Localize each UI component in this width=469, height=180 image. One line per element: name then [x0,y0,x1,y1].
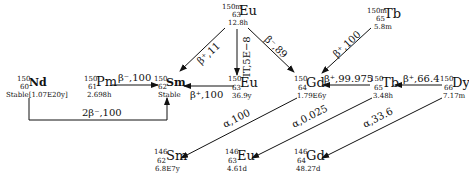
element-symbol: Eu [239,3,257,18]
element-symbol: Gd [306,148,325,163]
label-tb150-gd150: β⁺,99.975 [324,73,373,84]
element-symbol: Dy [452,75,469,90]
half-life: 7.17m [443,92,466,100]
half-life: 1.79E6y [297,92,326,100]
half-life: Stable[1.07E20y] [6,91,68,99]
half-life: 12.8h [228,19,249,27]
label-gd150-sm146: α,100 [221,107,252,130]
element-symbol: Eu [237,148,255,163]
atomic-number: 61 [88,83,97,91]
element-symbol: Tb [382,75,399,90]
label-nd150-sm150: 2β⁻,100 [82,107,122,118]
label-dy150-tb150: β⁺,66.4 [403,73,440,84]
nuclide-gd146: 146 Gd 64 48.27d [294,148,325,173]
arrow-dy150-gd146 [322,98,442,158]
half-life: 4.61d [227,165,248,173]
label-pm150-sm150: β⁻,100 [118,72,151,83]
atomic-number: 63 [232,84,241,92]
half-life: 6.8E7y [155,165,180,173]
nuclide-gd150: 150 Gd 64 1.79E6y [294,75,326,100]
element-symbol: Gd [306,75,325,90]
nuclide-sm150: 150 Sm 62 Stable [154,75,186,99]
label-eu150-sm150: β⁺,100 [190,89,223,100]
nuclide-eu150: 150 Eu 63 36.9y [228,75,258,100]
element-symbol: Sm [166,148,187,163]
element-symbol: Sm [166,76,186,89]
half-life: 3.48h [373,92,394,100]
nuclide-sm146: 146 Sm 62 6.8E7y [154,148,187,173]
label-tb150m-gd150: β⁺,100 [331,29,363,60]
half-life: 48.27d [296,165,321,173]
label-tb150-eu146: α,0.025 [290,102,329,129]
nuclide-pm150: 150 Pm 61 2.698h [84,74,117,99]
element-symbol: Nd [29,76,47,89]
nuclide-eu150m: 150m Eu 63 12.8h [222,3,257,27]
atomic-number: 60 [20,83,29,91]
label-dy150-gd146: α,33.6 [361,105,395,129]
nuclide-eu146: 146 Eu 63 4.61d [225,148,255,173]
half-life: 5.8m [374,23,392,31]
element-symbol: Eu [240,75,258,90]
half-life: 2.698h [87,91,112,99]
nuclide-tb150m: 150m Tb 65 5.8m [367,6,401,31]
atomic-number: 63 [228,157,237,165]
nuclide-nd150: 150 Nd 60 Stable[1.07E20y] [6,75,68,99]
decay-diagram: β⁻,100 2β⁻,100 β⁺,11 IT,5E−8 β⁻,89 β⁺,10… [0,0,469,180]
atomic-number: 63 [232,11,241,19]
nuclide-tb150: 150 Tb 65 3.48h [370,75,399,100]
label-eu150m-gd150: β⁻,89 [263,34,290,61]
label-eu150m-eu150: IT,5E−8 [241,36,252,77]
atomic-number: 66 [444,84,453,92]
half-life: Stable [158,91,181,99]
half-life: 36.9y [232,92,252,100]
atomic-number: 62 [158,83,167,91]
atomic-number: 62 [157,157,166,165]
element-symbol: Tb [384,6,401,21]
element-symbol: Pm [96,74,117,89]
atomic-number: 65 [374,84,383,92]
atomic-number: 64 [297,157,306,165]
atomic-number: 64 [298,84,307,92]
atomic-number: 65 [376,15,385,23]
nuclide-dy150: 150 Dy 66 7.17m [440,75,469,100]
